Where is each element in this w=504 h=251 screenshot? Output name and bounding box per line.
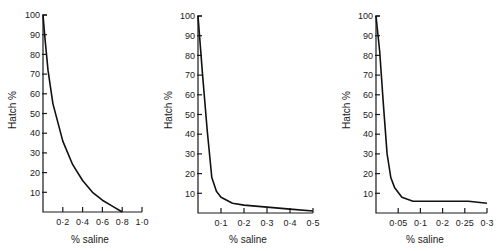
- y-tick-label: 40: [185, 129, 195, 139]
- y-tick-label: 70: [30, 69, 40, 79]
- x-tick-label: 0·3: [480, 218, 493, 228]
- y-tick-label: 100: [25, 10, 40, 20]
- x-tick-label: 0·4: [283, 218, 296, 228]
- x-axis-title: % saline: [406, 234, 444, 245]
- x-tick-label: 0·05: [389, 218, 407, 228]
- x-tick-label: 0·8: [116, 217, 129, 227]
- x-tick-label: 0·4: [76, 217, 89, 227]
- y-tick-label: 100: [180, 11, 195, 21]
- y-tick-label: 60: [185, 90, 195, 100]
- y-tick-label: 60: [30, 89, 40, 99]
- x-tick-label: 0·3: [260, 218, 273, 228]
- x-tick-label: 0·25: [456, 218, 474, 228]
- y-tick-label: 50: [30, 109, 40, 119]
- data-line: [198, 16, 313, 211]
- chart-panel-2: 1020304050607080901000·10·20·30·40·5Hatc…: [163, 11, 320, 245]
- y-tick-label: 90: [185, 31, 195, 41]
- x-tick-label: 0·2: [237, 218, 250, 228]
- y-tick-label: 90: [30, 30, 40, 40]
- y-tick-label: 10: [30, 188, 40, 198]
- y-tick-label: 50: [363, 110, 373, 120]
- y-tick-label: 10: [363, 189, 373, 199]
- y-tick-label: 60: [363, 90, 373, 100]
- y-tick-label: 30: [363, 149, 373, 159]
- x-tick-label: 0·1: [414, 218, 427, 228]
- x-tick-label: 0·6: [96, 217, 109, 227]
- y-tick-label: 30: [185, 149, 195, 159]
- x-tick-label: 0·2: [56, 217, 69, 227]
- y-tick-label: 10: [185, 189, 195, 199]
- y-tick-label: 20: [185, 169, 195, 179]
- y-axis-title: Hatch %: [7, 91, 18, 129]
- x-tick-label: 1·0: [135, 217, 148, 227]
- y-tick-label: 40: [30, 128, 40, 138]
- x-tick-label: 0·5: [306, 218, 319, 228]
- chart-panel-1: 1020304050607080901000·20·40·60·81·0Hatc…: [7, 10, 149, 245]
- y-axis-title: Hatch %: [341, 91, 352, 129]
- y-tick-label: 20: [363, 169, 373, 179]
- y-tick-label: 40: [363, 129, 373, 139]
- y-tick-label: 20: [30, 168, 40, 178]
- y-tick-label: 70: [185, 70, 195, 80]
- x-axis-title: % saline: [229, 234, 267, 245]
- x-axis-title: % saline: [71, 234, 109, 245]
- chart-panel-3: 1020304050607080901000·050·10·20·250·3Ha…: [341, 11, 494, 245]
- axes: [198, 16, 313, 213]
- y-axis-title: Hatch %: [163, 91, 174, 129]
- data-line: [43, 15, 122, 212]
- y-tick-label: 80: [363, 51, 373, 61]
- figure-three-line-charts: 1020304050607080901000·20·40·60·81·0Hatc…: [0, 0, 504, 251]
- data-line: [376, 16, 487, 203]
- y-tick-label: 70: [363, 70, 373, 80]
- y-tick-label: 90: [363, 31, 373, 41]
- y-tick-label: 100: [358, 11, 373, 21]
- y-tick-label: 80: [30, 50, 40, 60]
- y-tick-label: 80: [185, 51, 195, 61]
- x-tick-label: 0·1: [214, 218, 227, 228]
- y-tick-label: 50: [185, 110, 195, 120]
- y-tick-label: 30: [30, 148, 40, 158]
- x-tick-label: 0·2: [436, 218, 449, 228]
- axes: [43, 15, 142, 212]
